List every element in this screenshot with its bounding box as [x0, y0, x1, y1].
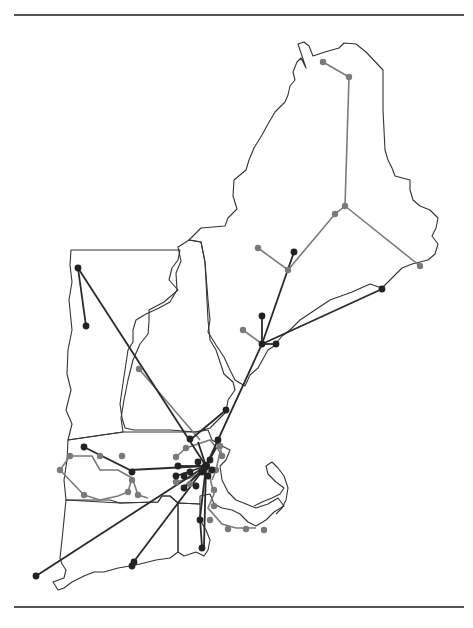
- map-node[interactable]: [225, 526, 231, 532]
- map-node[interactable]: [67, 453, 73, 459]
- state-outlines: [53, 42, 438, 590]
- map-node[interactable]: [197, 517, 204, 524]
- state-vermont: [66, 250, 180, 440]
- map-node[interactable]: [187, 469, 194, 476]
- map-node[interactable]: [285, 267, 291, 273]
- map-node[interactable]: [175, 463, 182, 470]
- map-node[interactable]: [417, 263, 423, 269]
- map-node[interactable]: [135, 492, 141, 498]
- map-node[interactable]: [217, 443, 223, 449]
- map-node[interactable]: [243, 526, 249, 532]
- new-england-route-map: [0, 0, 473, 628]
- map-node[interactable]: [215, 437, 222, 444]
- dark-nodes: [33, 249, 386, 580]
- map-node[interactable]: [342, 203, 348, 209]
- map-node[interactable]: [83, 323, 90, 330]
- cape-cod: [254, 462, 288, 514]
- map-node[interactable]: [181, 473, 188, 480]
- map-node[interactable]: [205, 473, 212, 480]
- map-node[interactable]: [199, 545, 206, 552]
- state-new-hampshire: [120, 240, 235, 432]
- map-node[interactable]: [181, 485, 188, 492]
- map-node[interactable]: [291, 249, 298, 256]
- map-node[interactable]: [187, 481, 193, 487]
- map-node[interactable]: [259, 313, 266, 320]
- map-node[interactable]: [173, 454, 179, 460]
- gray-network-routes: [60, 62, 420, 528]
- map-node[interactable]: [207, 517, 213, 523]
- map-node[interactable]: [173, 473, 180, 480]
- map-node[interactable]: [207, 457, 214, 464]
- state-maine: [189, 42, 438, 386]
- map-node[interactable]: [97, 453, 103, 459]
- map-node[interactable]: [223, 407, 230, 414]
- map-node[interactable]: [199, 469, 206, 476]
- map-node[interactable]: [129, 477, 135, 483]
- map-node[interactable]: [183, 445, 189, 451]
- map-node[interactable]: [219, 453, 225, 459]
- map-node[interactable]: [255, 245, 261, 251]
- map-node[interactable]: [209, 467, 216, 474]
- map-node[interactable]: [33, 573, 40, 580]
- map-node[interactable]: [211, 487, 217, 493]
- map-node[interactable]: [211, 503, 217, 509]
- map-node[interactable]: [346, 74, 352, 80]
- dark-network-routes: [36, 252, 382, 576]
- state-connecticut: [53, 496, 178, 590]
- map-node[interactable]: [187, 436, 194, 443]
- map-node[interactable]: [129, 469, 136, 476]
- map-node[interactable]: [125, 489, 131, 495]
- map-node[interactable]: [332, 211, 338, 217]
- map-node[interactable]: [240, 327, 246, 333]
- map-node[interactable]: [193, 483, 200, 490]
- map-node[interactable]: [119, 453, 125, 459]
- map-node[interactable]: [259, 341, 266, 348]
- map-node[interactable]: [173, 479, 179, 485]
- map-node[interactable]: [136, 366, 142, 372]
- map-node[interactable]: [129, 563, 136, 570]
- map-node[interactable]: [273, 341, 280, 348]
- map-node[interactable]: [57, 467, 63, 473]
- map-node[interactable]: [320, 59, 326, 65]
- map-node[interactable]: [81, 444, 88, 451]
- map-node[interactable]: [195, 459, 202, 466]
- map-node[interactable]: [75, 265, 82, 272]
- map-node[interactable]: [81, 492, 87, 498]
- map-node[interactable]: [261, 527, 267, 533]
- map-node[interactable]: [379, 286, 386, 293]
